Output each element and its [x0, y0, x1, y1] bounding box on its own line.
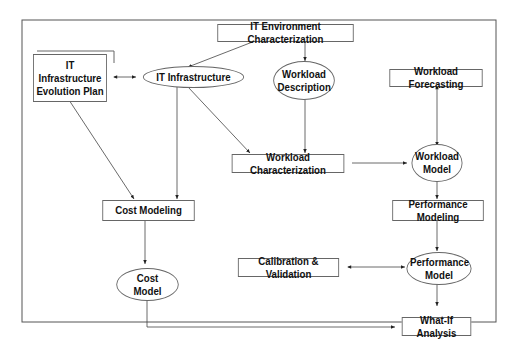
diagram-canvas: IT Environment Characterization IT Infra… — [0, 0, 518, 360]
node-label: Workload Forecasting — [390, 65, 482, 91]
node-workload-description: Workload Description — [273, 61, 335, 100]
node-it-infrastructure: IT Infrastructure — [143, 66, 244, 88]
node-label: Workload Description — [278, 68, 331, 94]
node-it-infrastructure-evolution-plan: IT Infrastructure Evolution Plan — [33, 54, 107, 102]
node-calibration-validation: Calibration & Validation — [238, 258, 339, 277]
node-label: IT Environment Characterization — [218, 20, 353, 46]
node-performance-model: Performance Model — [406, 252, 471, 285]
node-performance-modeling: Performance Modeling — [392, 200, 484, 221]
node-cost-modeling: Cost Modeling — [102, 200, 194, 221]
node-cost-model: Cost Model — [116, 268, 178, 301]
node-label: IT Infrastructure Evolution Plan — [34, 59, 106, 98]
node-what-if-analysis: What-If Analysis — [402, 317, 472, 336]
node-workload-forecasting: Workload Forecasting — [389, 69, 482, 87]
node-label: Performance Model — [410, 256, 468, 282]
node-label: What-If Analysis — [403, 314, 471, 340]
node-label: Workload Model — [415, 150, 459, 176]
node-label: Calibration & Validation — [239, 255, 338, 281]
node-workload-characterization: Workload Characterization — [232, 154, 345, 173]
node-label: Workload Characterization — [233, 151, 344, 177]
node-label: IT Infrastructure — [156, 71, 230, 84]
node-it-environment-characterization: IT Environment Characterization — [217, 24, 353, 42]
node-label: Cost Modeling — [115, 204, 182, 217]
node-label: Cost Model — [130, 272, 165, 298]
node-workload-model: Workload Model — [411, 144, 462, 182]
node-label: Performance Modeling — [393, 198, 483, 224]
